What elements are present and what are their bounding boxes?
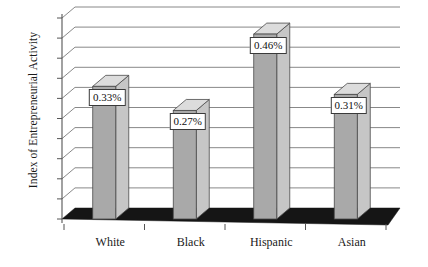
x-axis-tick-label: Hispanic <box>250 235 293 250</box>
bar-value-label: 0.46% <box>250 37 286 54</box>
x-axis-tick-label: Black <box>177 235 205 250</box>
bar-value-label: 0.33% <box>89 89 125 106</box>
x-axis-tick-label: Asian <box>338 235 366 250</box>
bar-chart: Index of Entrepreneurial Activity 0.000.… <box>0 0 428 267</box>
x-axis-tick-labels: WhiteBlackHispanicAsian0.33%0.27%0.46%0.… <box>0 0 428 267</box>
bar-value-label: 0.27% <box>170 113 206 130</box>
x-axis-tick-label: White <box>96 235 125 250</box>
bar-value-label: 0.31% <box>331 97 367 114</box>
